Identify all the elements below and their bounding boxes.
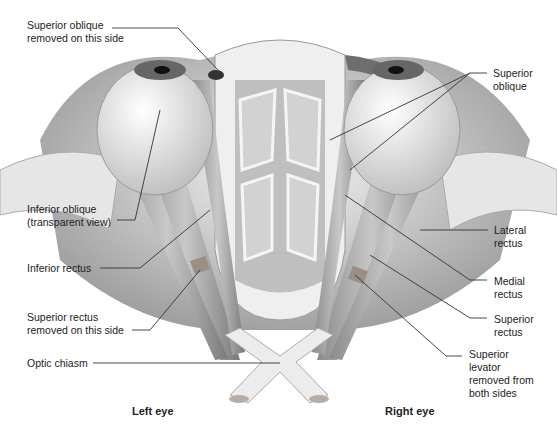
label-superior-oblique-removed: Superior oblique removed on this side [27, 19, 124, 45]
label-medial-rectus: Medial rectus [494, 275, 525, 301]
label-superior-rectus: Superior rectus [494, 313, 534, 339]
label-superior-rectus-removed: Superior rectus removed on this side [27, 311, 124, 337]
label-optic-chiasm: Optic chiasm [27, 357, 88, 370]
label-superior-oblique: Superior oblique [493, 67, 533, 93]
caption-right-eye: Right eye [385, 405, 435, 417]
caption-left-eye: Left eye [132, 405, 174, 417]
label-inferior-oblique: Inferior oblique (transparent view) [27, 203, 111, 229]
label-inferior-rectus: Inferior rectus [27, 262, 91, 275]
label-lateral-rectus: Lateral rectus [494, 224, 526, 250]
eye-muscle-diagram: Superior oblique removed on this side In… [0, 0, 557, 436]
label-superior-levator: Superior levator removed from both sides [469, 348, 534, 400]
optic-chiasm [225, 328, 333, 403]
